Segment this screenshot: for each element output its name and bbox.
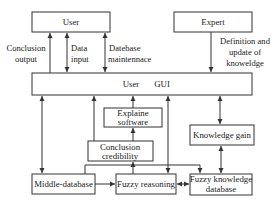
node-label: Knowledge gain: [193, 130, 251, 140]
node-label: Fuzzy reasoning: [117, 179, 175, 189]
edge-database-maintenance: Datebase maintennace: [105, 33, 152, 72]
system-architecture-diagram: User Expert User GUI Conclusion output D…: [0, 0, 277, 205]
node-label: software: [118, 117, 148, 127]
edge-conclusion-output: Conclusion output: [6, 33, 50, 73]
edge-label: maintennace: [108, 54, 152, 64]
gui-label-user: User: [123, 79, 140, 89]
user-gui-node: User GUI: [32, 73, 252, 95]
edge-label: output: [15, 54, 38, 64]
edge-expert-definition: Definition and update of knoweldge: [211, 32, 271, 72]
middle-database-node: Middle-database: [32, 174, 95, 194]
conclusion-credibility-node: Conclusion credibility: [88, 141, 153, 161]
edge-label: update of: [229, 47, 261, 57]
edge-label: Definition and: [220, 36, 271, 46]
edge-label: Datebase: [109, 43, 141, 53]
edge-label: Conclusion: [6, 43, 46, 53]
node-label: credibility: [102, 151, 139, 161]
fuzzy-knowledge-database-node: Fuzzy knowledge database: [190, 174, 252, 195]
node-label: Middle-database: [34, 179, 93, 189]
expert-node: Expert: [174, 12, 252, 32]
knowledge-gain-node: Knowledge gain: [190, 125, 254, 145]
edge-middle-db-kdb: [85, 165, 200, 174]
fuzzy-reasoning-node: Fuzzy reasoning: [116, 174, 176, 194]
edge-label: input: [71, 54, 89, 64]
user-node: User: [32, 12, 110, 32]
edge-label: Data: [71, 43, 87, 53]
edge-label: knoweldge: [226, 58, 264, 68]
node-label: Fuzzy knowledge: [190, 174, 252, 184]
expert-label: Expert: [201, 17, 225, 27]
user-label: User: [63, 17, 80, 27]
edge-data-input: Data input: [67, 33, 89, 72]
explain-software-node: Explaine software: [104, 108, 162, 127]
gui-label-gui: GUI: [154, 79, 170, 89]
node-label: database: [206, 184, 236, 194]
